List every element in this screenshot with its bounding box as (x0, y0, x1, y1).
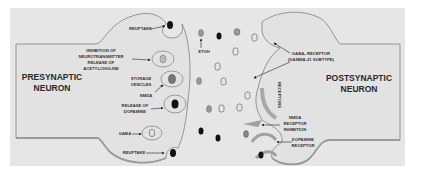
presynaptic-title: PRESYNAPTIC (22, 72, 82, 82)
gray-molecule (207, 106, 212, 113)
reuptake-top-molecule (167, 21, 173, 29)
label-inhibition-4: ACETYLCHOLINE (83, 66, 119, 71)
label-nmda: NMDA (140, 93, 153, 98)
label-inhibition-3: RELEASE OF (88, 60, 115, 65)
label-receptors: RECEPTORS (277, 82, 282, 108)
label-storage-2: VESICLES (131, 82, 152, 87)
vesicle-storage-core (169, 75, 176, 84)
hatched-molecule (244, 131, 249, 138)
synapse-diagram: PRESYNAPTIC NEURON POSTSYNAPTIC NEURON R… (0, 0, 430, 181)
postsynaptic-title: POSTSYNAPTIC (326, 73, 392, 83)
reuptake-bottom-molecule (170, 149, 176, 157)
vesicle-acetylcholine-core (160, 55, 166, 63)
label-gaba-receptor-2: (GAMMA-21 SUBTYPE) (288, 57, 335, 62)
label-inhibition-2: NEUROTRANSMITTER (78, 54, 123, 59)
etoh-molecule (199, 30, 204, 37)
dark-molecule (199, 128, 204, 135)
presynaptic-title-2: NEURON (34, 83, 71, 93)
label-dopamine-2: DOPAMINE (124, 109, 146, 114)
label-dopamine-receptor-1: DOPAMINE (292, 137, 314, 142)
label-gaba: GABA (119, 131, 131, 136)
label-dopamine-receptor-2: RECEPTOR (291, 143, 314, 148)
label-nmda-receptor-1: NMDA (289, 115, 302, 120)
label-dopamine-1: RELEASE OF (122, 103, 149, 108)
label-etoh: ETOH (198, 49, 210, 54)
vesicle-dopamine-core (172, 100, 179, 109)
dark-molecule (259, 152, 264, 159)
label-reuptake-bottom: REUPTAKE (123, 150, 146, 155)
label-reuptake-top: REUPTAKE (129, 26, 152, 31)
label-inhibition-1: INHIBITION OF (86, 48, 116, 53)
gray-molecule (197, 78, 202, 85)
label-nmda-receptor-2: RECEPTOR (283, 121, 306, 126)
gray-molecule (234, 29, 240, 36)
dark-molecule (216, 135, 221, 142)
postsynaptic-title-2: NEURON (341, 84, 378, 94)
label-nmda-receptor-3: INHIBITION (284, 127, 307, 132)
label-gaba-receptor-1: GABAₐ RECEPTOR (292, 51, 330, 56)
label-storage-1: STORAGE (131, 76, 152, 81)
dark-molecule (217, 33, 222, 40)
